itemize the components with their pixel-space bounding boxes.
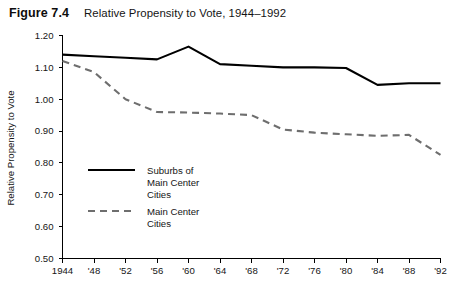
x-tick-label: '84: [371, 265, 384, 276]
x-tick-label: '64: [214, 265, 227, 276]
x-tick-label: '48: [88, 265, 101, 276]
x-tick-label: '80: [340, 265, 353, 276]
x-tick-label: '92: [434, 265, 447, 276]
y-tick-label: 0.90: [35, 125, 54, 136]
line-chart: Relative Propensity to Vote 0.500.600.70…: [0, 0, 454, 282]
y-tick-label: 0.70: [35, 189, 54, 200]
x-tick-label: 1944: [52, 265, 74, 276]
x-tick-label: '68: [245, 265, 258, 276]
y-axis-title-group: Relative Propensity to Vote: [5, 90, 16, 205]
y-axis-tick-marks: [59, 36, 63, 259]
legend-label-main-center-line1: Main Center: [147, 206, 200, 217]
x-tick-label: '52: [119, 265, 132, 276]
x-tick-label: '88: [403, 265, 416, 276]
y-tick-label: 0.80: [35, 157, 54, 168]
y-tick-label: 1.10: [35, 62, 54, 73]
x-tick-label: '60: [182, 265, 195, 276]
legend-label-suburbs-line3: Cities: [147, 189, 171, 200]
series-line-suburbs: [63, 47, 441, 85]
y-tick-label: 1.00: [35, 94, 54, 105]
figure-container: Figure 7.4 Relative Propensity to Vote, …: [0, 0, 454, 282]
legend-label-suburbs-line2: Main Center: [147, 177, 200, 188]
x-axis-tick-labels: 1944'48'52'56'60'64'68'72'76'80'84'88'92: [52, 265, 447, 276]
x-tick-label: '76: [308, 265, 321, 276]
y-tick-label: 1.20: [35, 30, 54, 41]
y-axis-tick-labels: 0.500.600.700.800.901.001.101.20: [35, 30, 54, 264]
y-tick-label: 0.60: [35, 221, 54, 232]
series-line-main-center-cities: [63, 61, 441, 155]
y-tick-label: 0.50: [35, 253, 54, 264]
x-tick-label: '72: [277, 265, 290, 276]
x-axis-tick-marks: [63, 259, 441, 263]
legend: Suburbs of Main Center Cities Main Cente…: [88, 165, 200, 229]
x-tick-label: '56: [151, 265, 164, 276]
legend-label-main-center-line2: Cities: [147, 218, 171, 229]
legend-label-suburbs-line1: Suburbs of: [147, 165, 194, 176]
y-axis-title: Relative Propensity to Vote: [5, 90, 16, 205]
